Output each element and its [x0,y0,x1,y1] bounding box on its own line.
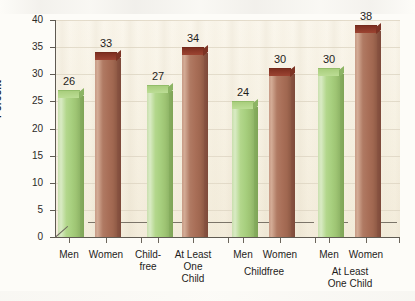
x-tick-2 [106,238,107,243]
bar-shaft [147,91,169,237]
y-tick-label-25: 25 [21,96,43,106]
bar-top-cap [58,90,80,98]
y-axis-line [55,20,56,238]
bar-top-cap [182,47,204,55]
bar-side [80,96,84,237]
group-label-atleast-line1: At Least [308,266,392,278]
bar-shaft [355,31,377,237]
bar-side [169,91,173,237]
bar-childfree [147,91,169,237]
x-tick-10 [329,238,330,243]
bar-men-childfree [232,107,254,237]
bar-shaft [182,53,204,237]
x-label-atleast-line2: One [166,261,220,273]
bar-shaft [269,74,291,237]
x-tick-12 [399,238,400,243]
bar-value-label-5: 24 [226,87,260,98]
group-label-childfree: Childfree [222,266,306,278]
bar-value-label-4: 34 [176,33,210,44]
x-tick-6 [228,238,229,243]
bar-value-label-8: 38 [349,11,383,22]
bar-side [291,74,295,237]
x-tick-11 [366,238,367,243]
y-axis-title: Percent [0,80,3,118]
bar-top-cap [355,25,377,33]
bar-at-least-one-child [182,53,204,237]
x-label-atleast-line3: Child [166,273,220,285]
bar-side [340,74,344,237]
bar-shaft [95,58,117,237]
bar-shaft [318,74,340,237]
y-tick-label-35: 35 [21,42,43,52]
y-tick-label-15: 15 [21,151,43,161]
y-tick-label-40: 40 [21,15,43,25]
group-label-atleast-line2: One Child [308,278,392,290]
x-tick-7 [243,238,244,243]
bar-side [117,58,121,237]
x-tick-8 [280,238,281,243]
floor-edge-seg2 [118,222,150,223]
bar-chart: 26 33 27 34 24 30 30 [0,0,415,301]
bar-women-childfree [269,74,291,237]
y-tick-10 [50,183,55,184]
x-tick-4 [158,238,159,243]
bar-side [254,107,258,237]
y-tick-20 [50,129,55,130]
y-tick-35 [50,47,55,48]
y-tick-30 [50,74,55,75]
y-tick-5 [50,210,55,211]
bar-shaft [232,107,254,237]
x-tick-3 [141,238,142,243]
bar-women-1 [95,58,117,237]
y-tick-40 [50,20,55,21]
bar-top-cap [147,85,169,93]
y-tick-label-5: 5 [21,205,43,215]
y-tick-label-10: 10 [21,178,43,188]
scan-artifact-bottom [0,291,415,301]
bar-value-label-3: 27 [141,71,175,82]
x-label-women-2: Women [253,249,307,261]
x-tick-1 [69,238,70,243]
y-tick-15 [50,156,55,157]
x-tick-9 [315,238,316,243]
bar-value-label-2: 33 [89,38,123,49]
floor-wedge-left [55,226,68,238]
bar-women-at-least-one-child [355,31,377,237]
bar-top-cap [269,68,291,76]
y-tick-0 [50,237,55,238]
x-label-women-3: Women [339,249,393,261]
bar-value-label-7: 30 [312,54,346,65]
bar-side [377,31,381,237]
bar-top-cap [318,68,340,76]
x-tick-5 [193,238,194,243]
bar-top-cap [232,101,254,109]
bar-side [204,53,208,237]
bar-men-at-least-one-child [318,74,340,237]
y-tick-label-0: 0 [21,232,43,242]
y-tick-label-30: 30 [21,69,43,79]
bar-value-label-1: 26 [52,76,86,87]
y-tick-25 [50,101,55,102]
bar-men-1 [58,96,80,237]
bar-shaft [58,96,80,237]
bar-top-cap [95,52,117,60]
y-tick-label-20: 20 [21,124,43,134]
x-label-atleast-line1: At Least [166,249,220,261]
bar-value-label-6: 30 [263,54,297,65]
